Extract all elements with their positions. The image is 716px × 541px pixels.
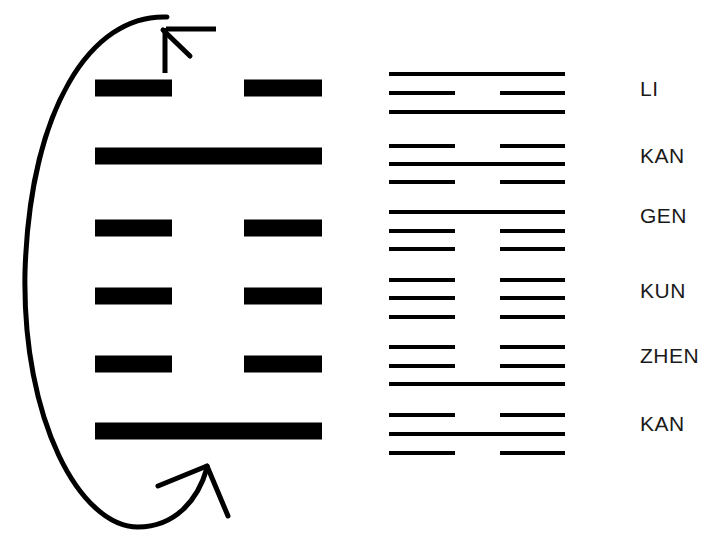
trigram-line-3-0-broken-left <box>389 278 455 282</box>
diagram-vector-layer <box>0 0 716 541</box>
trigram-label-zhen-4: ZHEN <box>640 345 699 366</box>
trigram-line-4-1-broken-left <box>389 364 455 368</box>
trigram-line-1-2-broken-right <box>500 180 565 184</box>
trigram-label-li-0: LI <box>640 78 659 99</box>
trigram-line-2-1-broken-right <box>500 229 565 233</box>
main-hexagram <box>95 80 322 440</box>
trigram-line-5-0-broken-right <box>500 413 565 417</box>
trigram-group-kan-1 <box>389 144 565 184</box>
diagram-canvas: LIKANGENKUNZHENKAN <box>0 0 716 541</box>
hexagram-line-6-broken-left <box>95 80 172 97</box>
trigram-line-2-2-broken-right <box>500 247 565 251</box>
trigram-line-0-2-solid <box>389 110 565 114</box>
trigram-line-2-0-solid <box>389 210 565 214</box>
hexagram-line-4-broken-right <box>244 220 322 237</box>
trigram-line-5-0-broken-left <box>389 413 455 417</box>
trigram-group-zhen-4 <box>389 345 565 386</box>
trigram-line-1-0-broken-left <box>389 144 455 148</box>
hexagram-line-2-broken-left <box>95 356 172 373</box>
trigram-line-4-1-broken-right <box>500 364 565 368</box>
trigram-line-2-1-broken-left <box>389 229 455 233</box>
trigram-group-gen-2 <box>389 210 565 251</box>
hexagram-line-1-solid <box>95 423 322 440</box>
trigram-group-kan-5 <box>389 413 565 455</box>
trigram-group-kun-3 <box>389 278 565 319</box>
trigram-group-li-0 <box>389 72 565 114</box>
trigram-line-0-1-broken-right <box>500 91 565 95</box>
trigram-label-kun-3: KUN <box>640 280 686 301</box>
hexagram-line-4-broken-left <box>95 220 172 237</box>
trigram-line-1-0-broken-right <box>500 144 565 148</box>
trigram-line-5-1-solid <box>389 432 565 436</box>
trigram-label-kan-5: KAN <box>640 413 685 434</box>
trigram-label-kan-1: KAN <box>640 145 685 166</box>
trigram-line-5-2-broken-right <box>500 451 565 455</box>
trigram-line-3-2-broken-right <box>500 315 565 319</box>
hexagram-line-3-broken-left <box>95 288 172 305</box>
trigram-line-0-0-solid <box>389 72 565 76</box>
trigram-line-3-1-broken-left <box>389 296 455 300</box>
trigram-line-4-0-broken-left <box>389 345 455 349</box>
trigram-line-0-1-broken-left <box>389 91 455 95</box>
trigram-column <box>389 72 565 455</box>
trigram-line-4-2-solid <box>389 382 565 386</box>
trigram-line-3-0-broken-right <box>500 278 565 282</box>
trigram-line-3-2-broken-left <box>389 315 455 319</box>
trigram-line-4-0-broken-right <box>500 345 565 349</box>
hexagram-line-2-broken-right <box>244 356 322 373</box>
arrow-bottom-barb-right <box>207 466 228 516</box>
hexagram-line-5-solid <box>95 148 322 165</box>
hexagram-line-3-broken-right <box>244 288 322 305</box>
hexagram-line-6-broken-right <box>244 80 322 97</box>
trigram-line-5-2-broken-left <box>389 451 455 455</box>
trigram-line-2-2-broken-left <box>389 247 455 251</box>
trigram-line-3-1-broken-right <box>500 296 565 300</box>
trigram-line-1-2-broken-left <box>389 180 455 184</box>
trigram-label-gen-2: GEN <box>640 205 687 226</box>
trigram-line-1-1-solid <box>389 162 565 166</box>
